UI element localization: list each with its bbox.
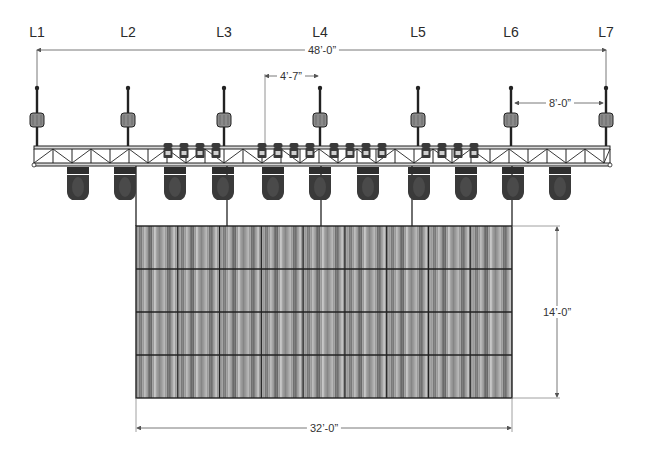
moving-head-fixture [114, 167, 136, 200]
par-fixture [346, 143, 355, 158]
dimension-wall-width: 32’-0” [307, 422, 341, 434]
hoist-label-l4: L4 [312, 24, 328, 40]
par-fixture [362, 143, 371, 158]
moving-head-fixture [164, 167, 186, 200]
par-fixture [290, 143, 299, 158]
par-fixture [422, 143, 431, 158]
par-fixture [212, 143, 221, 158]
moving-head-fixture [262, 167, 284, 200]
dimension-overall-truss: 48’-0” [305, 44, 339, 56]
moving-head-fixture [212, 167, 234, 200]
par-fixture [470, 143, 479, 158]
chain-hoist-l4 [313, 86, 327, 146]
dimension-wall-height: 14’-0” [540, 306, 574, 318]
par-fixture [274, 143, 283, 158]
par-fixture [438, 143, 447, 158]
truss [32, 146, 612, 167]
hoist-label-l7: L7 [598, 24, 614, 40]
par-fixture [306, 143, 315, 158]
moving-head-fixture [309, 167, 331, 200]
hoist-label-l1: L1 [29, 24, 45, 40]
moving-head-fixture [455, 167, 477, 200]
dimension-hoist-offset: 4’-7” [277, 70, 305, 82]
chain-hoist-l2 [121, 86, 135, 146]
hoist-label-l6: L6 [503, 24, 519, 40]
rigging-diagram: L1L2L3L4L5L6L7 48’-0” 4’-7” 8’-0” 14’-0”… [0, 0, 645, 457]
par-fixture [164, 143, 173, 158]
chain-hoist-l7 [599, 86, 613, 146]
hoist-label-l2: L2 [120, 24, 136, 40]
moving-head-fixture [357, 167, 379, 200]
par-fixture [454, 143, 463, 158]
par-fixture [330, 143, 339, 158]
video-wall [136, 226, 512, 398]
par-fixture [258, 143, 267, 158]
par-fixture [196, 143, 205, 158]
moving-head-fixture [408, 167, 430, 200]
moving-head-fixture [502, 167, 524, 200]
chain-hoist-l6 [504, 86, 518, 146]
par-fixture [180, 143, 189, 158]
chain-hoist-l5 [411, 86, 425, 146]
moving-head-fixture [67, 167, 89, 200]
chain-hoist-l1 [30, 86, 44, 146]
par-fixture [378, 143, 387, 158]
hoist-label-l3: L3 [216, 24, 232, 40]
dimension-end-spacing: 8’-0” [546, 97, 574, 109]
rigging-drawing [0, 0, 645, 457]
hoist-label-l5: L5 [410, 24, 426, 40]
moving-head-fixture [549, 167, 571, 200]
chain-hoist-l3 [217, 86, 231, 146]
